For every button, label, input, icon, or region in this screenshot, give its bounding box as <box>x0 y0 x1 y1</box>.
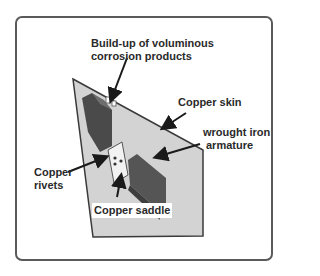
label-rivets-line1: Copper <box>34 166 73 179</box>
arrow-copper-skin <box>163 113 186 128</box>
label-armature-line2: armature <box>206 139 253 152</box>
arrow-corrosion <box>111 58 127 100</box>
label-copper-skin: Copper skin <box>178 96 242 109</box>
label-corrosion-line2: corrosion products <box>91 50 192 63</box>
label-armature-line1: wrought iron <box>203 126 270 139</box>
label-corrosion-line1: Build-up of voluminous <box>91 37 214 50</box>
label-copper-saddle: Copper saddle <box>92 203 172 218</box>
label-rivets-line2: rivets <box>34 179 63 192</box>
